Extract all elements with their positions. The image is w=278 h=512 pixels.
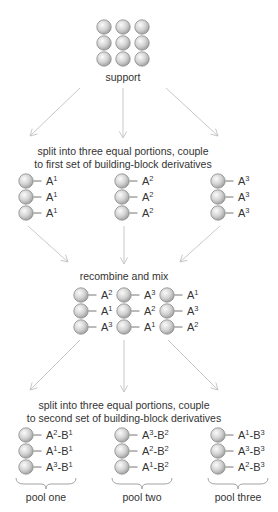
bead-icon xyxy=(115,444,129,458)
building-block-label: A2​ xyxy=(101,288,113,301)
building-block-label: A2​ xyxy=(142,206,154,219)
building-block-label: A1​ xyxy=(144,320,156,333)
bead-icon xyxy=(135,52,149,66)
arrow-icon xyxy=(166,88,218,136)
building-block-label: A3​ xyxy=(187,304,199,317)
building-block-label: A2​ xyxy=(187,320,199,333)
building-block-label: A3​ xyxy=(238,206,250,219)
support-bead-grid xyxy=(97,20,149,66)
bead-icon xyxy=(19,174,33,188)
bead-group-2: A2​A2​A2​ xyxy=(115,174,154,220)
bead-icon xyxy=(74,320,88,334)
building-block-label: A1​-B2​ xyxy=(142,460,169,473)
bead-icon xyxy=(115,460,129,474)
bead-icon xyxy=(117,304,131,318)
split-and-pool-diagram: support split into three equal portions,… xyxy=(0,0,278,512)
arrow-icon xyxy=(30,88,80,136)
recombined-bead-columns: A2​A1​A3​A3​A2​A1​A1​A3​A2​ xyxy=(74,288,199,334)
building-block-label: A3​-B3​ xyxy=(238,444,265,457)
building-block-label: A1​-B1​ xyxy=(46,444,73,457)
pool-label: pool two xyxy=(122,491,161,503)
step2-caption: recombine and mix xyxy=(80,270,169,282)
bead-icon xyxy=(19,460,33,474)
bead-icon xyxy=(211,444,225,458)
step3-caption-line2: to second set of building-block derivati… xyxy=(27,412,221,424)
bead-icon xyxy=(135,36,149,50)
bead-icon xyxy=(97,36,111,50)
step1-caption-line1: split into three equal portions, couple xyxy=(37,145,208,157)
arrow-icon xyxy=(30,340,80,390)
building-block-label: A3​ xyxy=(238,190,250,203)
bead-group-3: A3​A3​A3​ xyxy=(211,174,250,220)
building-block-label: A2​ xyxy=(144,304,156,317)
building-block-label: A3​ xyxy=(144,288,156,301)
building-block-label: A2​ xyxy=(142,190,154,203)
support-label: support xyxy=(105,71,140,83)
bead-icon xyxy=(115,174,129,188)
final-pools: A2​-B1​A1​-B1​A3​-B1​pool oneA3​-B2​A2​-… xyxy=(16,428,268,503)
step3-caption-line1: split into three equal portions, couple xyxy=(38,399,209,411)
bead-icon xyxy=(117,320,131,334)
bead-icon xyxy=(74,304,88,318)
building-block-label: A1​ xyxy=(46,190,58,203)
arrow-icon xyxy=(180,226,220,262)
recombined-column-3: A1​A3​A2​ xyxy=(160,288,199,334)
bead-icon xyxy=(160,288,174,302)
bead-icon xyxy=(97,20,111,34)
bead-icon xyxy=(116,20,130,34)
building-block-label: A3​-B2​ xyxy=(142,428,169,441)
step1-bead-groups: A1​A1​A1​A2​A2​A2​A3​A3​A3​ xyxy=(19,174,250,220)
building-block-label: A3​-B1​ xyxy=(46,460,73,473)
building-block-label: A1​ xyxy=(46,174,58,187)
building-block-label: A2​-B2​ xyxy=(142,444,169,457)
bead-icon xyxy=(211,206,225,220)
bead-icon xyxy=(211,174,225,188)
recombined-column-1: A2​A1​A3​ xyxy=(74,288,113,334)
split-arrows-2 xyxy=(30,340,218,392)
bead-icon xyxy=(117,288,131,302)
bead-icon xyxy=(115,428,129,442)
bead-icon xyxy=(97,52,111,66)
bead-icon xyxy=(115,206,129,220)
pool-2: A3​-B2​A2​-B2​A1​-B2​pool two xyxy=(112,428,172,503)
merge-arrows xyxy=(28,226,220,264)
bead-icon xyxy=(19,444,33,458)
building-block-label: A3​ xyxy=(238,174,250,187)
building-block-label: A1​ xyxy=(46,206,58,219)
bead-icon xyxy=(19,428,33,442)
building-block-label: A2​ xyxy=(142,174,154,187)
bead-icon xyxy=(211,460,225,474)
pool-label: pool three xyxy=(215,491,262,503)
bead-icon xyxy=(74,288,88,302)
bead-icon xyxy=(116,36,130,50)
bead-icon xyxy=(19,206,33,220)
building-block-label: A2​-B1​ xyxy=(46,428,73,441)
building-block-label: A3​ xyxy=(101,320,113,333)
pool-label: pool one xyxy=(26,491,66,503)
building-block-label: A1​ xyxy=(187,288,199,301)
split-arrows-1 xyxy=(30,88,218,138)
bead-icon xyxy=(135,20,149,34)
arrow-icon xyxy=(28,226,68,262)
building-block-label: A2​-B3​ xyxy=(238,460,265,473)
pool-3: A1​-B3​A3​-B3​A2​-B3​pool three xyxy=(208,428,268,503)
brace-icon xyxy=(112,478,172,489)
bead-group-1: A1​A1​A1​ xyxy=(19,174,58,220)
bead-icon xyxy=(116,52,130,66)
bead-icon xyxy=(160,320,174,334)
bead-icon xyxy=(160,304,174,318)
bead-icon xyxy=(19,190,33,204)
arrow-icon xyxy=(168,340,218,390)
building-block-label: A1​ xyxy=(101,304,113,317)
brace-icon xyxy=(16,478,76,489)
bead-icon xyxy=(211,190,225,204)
building-block-label: A1​-B3​ xyxy=(238,428,265,441)
recombined-column-2: A3​A2​A1​ xyxy=(117,288,156,334)
bead-icon xyxy=(115,190,129,204)
bead-icon xyxy=(211,428,225,442)
brace-icon xyxy=(208,478,268,489)
pool-1: A2​-B1​A1​-B1​A3​-B1​pool one xyxy=(16,428,76,503)
step1-caption-line2: to first set of building-block derivativ… xyxy=(34,158,211,170)
